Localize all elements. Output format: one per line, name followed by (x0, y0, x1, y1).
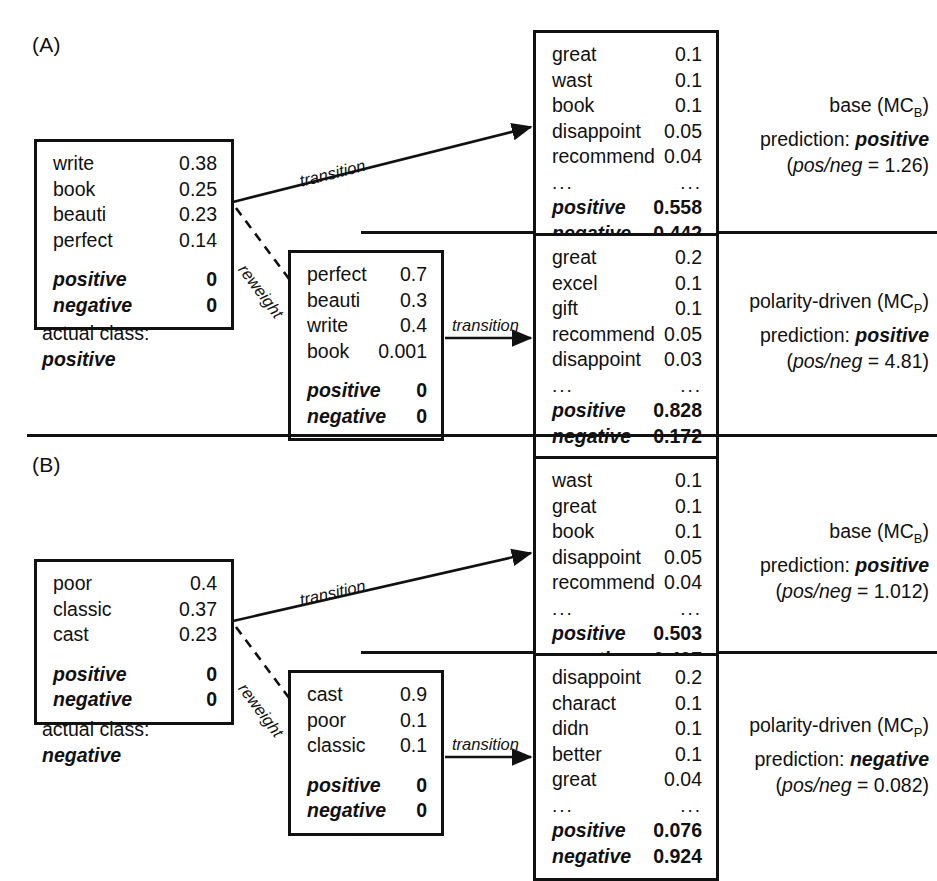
row-value: ... (680, 373, 702, 399)
distribution-row: recommend 0.04 (552, 570, 702, 596)
row-spacer (53, 253, 217, 267)
polarity-distribution-box-b: disappoint 0.2 charact 0.1 didn 0.1 bett… (533, 653, 719, 881)
prediction-value: positive (855, 554, 929, 576)
model-name: polarity-driven (MC (749, 290, 914, 312)
row-word: gift (552, 296, 578, 322)
distribution-row: perfect 0.14 (53, 228, 217, 254)
row-word: recommend (552, 322, 655, 348)
row-value: 0.1 (675, 42, 702, 68)
row-value: 0.076 (653, 818, 702, 844)
row-word: negative (53, 293, 132, 319)
distribution-row: recommend 0.05 (552, 322, 702, 348)
ratio-value: = 1.012) (851, 580, 929, 602)
row-word: wast (552, 468, 592, 494)
prediction-value: positive (855, 128, 929, 150)
row-word: negative (307, 798, 386, 824)
prediction-caption: prediction: (760, 128, 855, 150)
row-value: 0.2 (675, 665, 702, 691)
ratio-label: pos/neg (782, 774, 851, 796)
distribution-row: great 0.2 (552, 245, 702, 271)
prediction-caption: prediction: (760, 324, 855, 346)
ratio-line: (pos/neg = 1.012) (760, 578, 929, 604)
ratio-line: (pos/neg = 4.81) (749, 348, 929, 374)
model-close-paren: ) (923, 94, 930, 116)
row-value: 0.25 (179, 177, 217, 203)
model-subscript: B (914, 105, 923, 120)
ratio-label: pos/neg (782, 580, 851, 602)
row-value: 0 (416, 404, 427, 430)
model-name-line: base (MCB) (760, 518, 929, 552)
row-word: poor (307, 708, 346, 734)
row-spacer (53, 648, 217, 662)
arrow-transition-a-base (233, 127, 531, 202)
model-close-paren: ) (923, 290, 930, 312)
row-word: book (552, 93, 594, 119)
row-value: 0.23 (179, 202, 217, 228)
actual-class-value: positive (42, 346, 149, 372)
distribution-row: disappoint 0.05 (552, 119, 702, 145)
class-row-positive: positive 0.828 (552, 398, 702, 424)
panel-label-a: (A) (32, 33, 61, 57)
row-value: 0.924 (653, 844, 702, 870)
distribution-ellipsis-row: ... ... (552, 596, 702, 622)
row-word: positive (307, 378, 381, 404)
row-value: 0.828 (653, 398, 702, 424)
row-spacer (307, 364, 427, 378)
model-name-line: base (MCB) (760, 92, 929, 126)
row-word: negative (53, 687, 132, 713)
distribution-row: disappoint 0.2 (552, 665, 702, 691)
row-word: perfect (307, 262, 367, 288)
row-word: ... (552, 793, 574, 819)
class-row-negative: negative 0 (53, 293, 217, 319)
row-word: negative (307, 404, 386, 430)
row-word: positive (552, 621, 626, 647)
row-word: disappoint (552, 665, 641, 691)
distribution-row: book 0.1 (552, 519, 702, 545)
distribution-row: charact 0.1 (552, 691, 702, 717)
actual-class-caption: actual class: (42, 716, 149, 742)
row-value: 0.05 (664, 322, 702, 348)
row-value: 0.4 (400, 313, 427, 339)
row-word: beauti (53, 202, 106, 228)
distribution-row: didn 0.1 (552, 716, 702, 742)
row-word: charact (552, 691, 616, 717)
prediction-caption: prediction: (754, 748, 849, 770)
row-value: 0.03 (664, 347, 702, 373)
row-value: 0.1 (675, 296, 702, 322)
distribution-row: beauti 0.23 (53, 202, 217, 228)
row-value: ... (680, 596, 702, 622)
distribution-row: classic 0.1 (307, 733, 427, 759)
row-value: 0.04 (664, 767, 702, 793)
row-word: didn (552, 716, 589, 742)
row-value: 0 (206, 687, 217, 713)
model-subscript: P (914, 725, 923, 740)
row-value: 0 (206, 267, 217, 293)
row-word: book (53, 177, 95, 203)
distribution-row: write 0.4 (307, 313, 427, 339)
row-value: 0 (416, 378, 427, 404)
row-value: 0.1 (400, 708, 427, 734)
distribution-row: great 0.1 (552, 494, 702, 520)
panel-label-b: (B) (32, 453, 61, 477)
model-name-line: polarity-driven (MCP) (749, 712, 929, 746)
row-word: disappoint (552, 347, 641, 373)
row-value: 0.1 (675, 68, 702, 94)
row-word: cast (53, 622, 89, 648)
row-value: 0.04 (664, 144, 702, 170)
ratio-line: (pos/neg = 1.26) (760, 152, 929, 178)
distribution-row: better 0.1 (552, 742, 702, 768)
class-row-positive: positive 0 (53, 267, 217, 293)
distribution-row: gift 0.1 (552, 296, 702, 322)
class-row-negative: negative 0 (53, 687, 217, 713)
reweight-distribution-box-a: perfect 0.7 beauti 0.3 write 0.4 book 0.… (288, 250, 444, 441)
base-distribution-box-b: wast 0.1 great 0.1 book 0.1 disappoint 0… (533, 456, 719, 684)
model-close-paren: ) (923, 714, 930, 736)
ratio-line: (pos/neg = 0.082) (749, 772, 929, 798)
prediction-line: prediction: negative (749, 746, 929, 772)
model-subscript: P (914, 301, 923, 316)
row-value: 0.04 (664, 570, 702, 596)
row-value: 0.1 (675, 519, 702, 545)
row-value: 0.1 (400, 733, 427, 759)
row-value: 0 (416, 798, 427, 824)
row-value: 0.9 (400, 682, 427, 708)
